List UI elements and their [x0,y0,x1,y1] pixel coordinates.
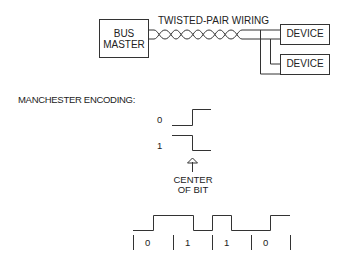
bus-master-line1: BUS [100,28,148,39]
center-arrow [188,158,198,172]
bus-master-line2: MASTER [100,39,148,50]
waveform-zero [172,110,211,126]
bus-master-label: BUS MASTER [100,28,148,50]
diagram-graphics [0,0,349,265]
center-of-bit-label: CENTER OF BIT [167,175,219,195]
legend-bit-one: 1 [157,141,162,151]
encoding-title: MANCHESTER ENCODING: [18,95,135,105]
sequence-bit-3: 1 [224,238,229,248]
wire-stubs [149,30,155,39]
encoded-waveform [133,216,290,231]
sequence-bit-4: 0 [263,238,268,248]
sequence-bit-1: 0 [145,238,150,248]
waveform-one [172,136,211,151]
sequence-bit-2: 1 [185,238,190,248]
twisted-pair [154,30,242,39]
center-label-line2: OF BIT [167,185,219,195]
device-label-2: DEVICE [281,59,329,69]
device-drop-wires [261,30,281,74]
legend-bit-zero: 0 [157,115,162,125]
wiring-label: TWISTED-PAIR WIRING [158,16,269,26]
device-label-1: DEVICE [281,29,329,39]
